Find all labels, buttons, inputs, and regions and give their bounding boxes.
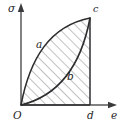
curve-a-label: a [36, 38, 42, 50]
stress-strain-figure: σ e O c d a b [0, 0, 124, 123]
origin-point-label: O [13, 109, 22, 121]
strain-axis-arrow-icon [108, 102, 117, 108]
point-d-label: d [87, 109, 94, 121]
stress-axis-label: σ [8, 2, 16, 14]
point-c-label: c [93, 3, 99, 14]
stress-axis-arrow-icon [18, 3, 24, 12]
curve-b-label: b [67, 70, 74, 82]
strain-axis-label: e [111, 109, 117, 121]
stress-strain-diagram: σ e O c d a b [0, 0, 124, 123]
